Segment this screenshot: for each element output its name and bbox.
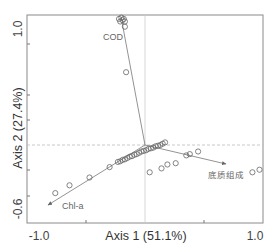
x-max-label: 1.0 [247, 229, 264, 243]
y-max-label: 1.0 [11, 20, 25, 37]
sample-point [147, 170, 152, 175]
sample-point [124, 70, 129, 75]
sample-point [165, 162, 170, 167]
sample-point [53, 191, 58, 196]
vector-label-sediment: 底质组成 [208, 170, 244, 180]
vector-cod: COD [103, 22, 145, 145]
vector-label-cod: COD [103, 32, 124, 42]
sample-point [257, 167, 262, 172]
y-min-label: -0.6 [11, 198, 25, 219]
y-axis-title: Axis 2 (27.4%) [11, 87, 25, 168]
vector-sediment: 底质组成 [145, 145, 244, 180]
sample-point [250, 170, 255, 175]
x-min-label: -1.0 [29, 229, 50, 243]
sample-point [196, 149, 201, 154]
ordination-biplot: 1.0 -0.6 -1.0 1.0 Axis 1 (51.1%) Axis 2 … [0, 0, 275, 250]
vector-chla: Chl-a [48, 145, 145, 211]
vector-label-chla: Chl-a [62, 201, 84, 211]
x-axis-title: Axis 1 (51.1%) [105, 229, 186, 243]
sample-point [67, 183, 72, 188]
sample-point [159, 166, 164, 171]
sample-point [187, 152, 192, 157]
sample-points [53, 15, 262, 196]
sample-point [173, 161, 178, 166]
